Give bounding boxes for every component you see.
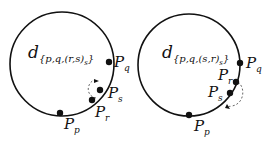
left-circle [10,12,114,116]
left-label-p: Pp [63,115,80,135]
right-point-q [237,60,243,66]
left-rotation-arrow [88,80,96,98]
left-point-s [97,87,103,93]
left-label-s: Ps [107,84,123,104]
right-point-p [186,112,192,118]
right-diagram: d{p,q,(s,r)s} Pq Pr Ps Pp [138,14,262,137]
right-point-r [233,79,239,85]
left-diagram: d{p,q,(r,s)s} Pq Ps Pr Pp [10,12,130,135]
right-point-s [227,90,233,96]
left-point-p [57,110,63,116]
left-arrow-head-icon [94,79,99,83]
right-circle [138,14,240,116]
left-label-q: Pq [113,53,130,73]
left-point-q [106,59,112,65]
right-label-r: Pr [217,66,233,86]
right-label-p: Pp [193,117,210,137]
right-label-q: Pq [245,54,262,74]
diagram-canvas: d{p,q,(r,s)s} Pq Ps Pr Pp d{p,q,(s,r)s} … [0,0,272,142]
left-label-r: Pr [94,103,110,123]
right-distance-label: d{p,q,(s,r)s} [162,42,229,67]
left-distance-label: d{p,q,(r,s)s} [28,42,94,67]
right-label-s: Ps [207,83,223,103]
